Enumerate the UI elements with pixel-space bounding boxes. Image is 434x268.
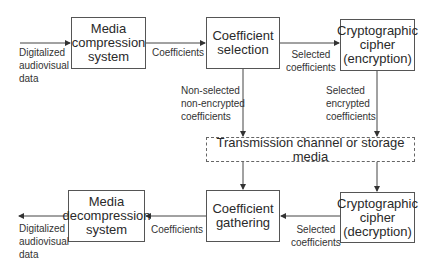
coefficient-gathering-label: Coefficient gathering [212,202,273,230]
media-decompression-box: Media decompression system [68,190,145,242]
transmission-label: Transmission channel or storage media [207,136,414,164]
coefficient-gathering-box: Coefficient gathering [206,190,280,242]
decryption-to-gathering-label: Selected coefficients [291,223,341,249]
selection-to-encryption-label: Selected coefficients [286,48,336,74]
coefficient-selection-label: Coefficient selection [212,29,273,57]
crypto-encryption-box: Cryptographic cipher (encryption) [340,19,415,71]
media-decompression-label: Media decompression system [62,195,150,237]
media-compression-box: Media compression system [71,17,146,69]
input-data-label: Digitalized audiovisual data [19,46,69,85]
output-data-label: Digitalized audiovisual data [19,222,69,261]
gathering-to-decompression-label: Coefficients [151,223,203,236]
crypto-decryption-box: Cryptographic cipher (decryption) [340,192,415,243]
non-selected-label: Non-selected non-encrypted coefficients [181,84,245,123]
encrypted-label: Selected encrypted coefficients [326,84,376,123]
crypto-decryption-label: Cryptographic cipher (decryption) [337,197,418,239]
compression-to-selection-label: Coefficients [152,46,204,59]
transmission-box: Transmission channel or storage media [206,137,415,162]
coefficient-selection-box: Coefficient selection [206,17,280,69]
media-compression-label: Media compression system [72,22,146,64]
crypto-encryption-label: Cryptographic cipher (encryption) [337,24,418,66]
